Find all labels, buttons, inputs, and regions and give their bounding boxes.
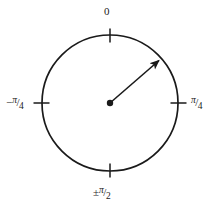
phase-circle-graphic	[0, 0, 221, 210]
fraction-denominator: 4	[198, 101, 203, 111]
fraction-denominator: 2	[106, 191, 111, 201]
fraction-pi-over-4: π/4	[191, 97, 204, 109]
label-negative-pi-over-4: − π/4	[6, 97, 25, 109]
origin-dot	[107, 100, 113, 106]
fraction-denominator: 4	[19, 101, 24, 111]
label-zero: 0	[104, 6, 110, 17]
fraction-pi-over-2: π/2	[99, 187, 112, 199]
phasor-vector	[110, 61, 159, 104]
fraction-pi-over-4-negative: π/4	[12, 97, 25, 109]
label-plus-minus-pi-over-2: ± π/2	[93, 187, 112, 199]
label-pi-over-4: π/4	[191, 97, 204, 109]
phase-circle-diagram: 0 π/4 − π/4 ± π/2	[0, 0, 221, 210]
